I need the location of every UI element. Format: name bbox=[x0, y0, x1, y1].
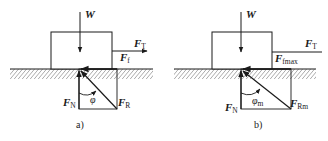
ground-hatching bbox=[10, 69, 153, 79]
label-tension: FT bbox=[133, 37, 146, 51]
label-weight: W bbox=[246, 8, 257, 20]
label-friction-max: Ffmax bbox=[274, 52, 298, 66]
label-tension: FT bbox=[304, 37, 317, 51]
caption-b: b) bbox=[254, 119, 262, 131]
friction-diagram: W FT Ff FN FR φ a) W FT Ffmax FN FRm φm … bbox=[0, 0, 328, 141]
block bbox=[212, 32, 272, 69]
label-normal: FN bbox=[224, 101, 238, 115]
label-resultant: FR bbox=[117, 96, 130, 110]
label-normal: FN bbox=[62, 96, 76, 110]
panel-a: W FT Ff FN FR φ a) bbox=[10, 8, 153, 131]
label-weight: W bbox=[85, 8, 96, 20]
label-angle: φm bbox=[252, 95, 264, 108]
angle-arc bbox=[241, 89, 260, 95]
panel-b: W FT Ffmax FN FRm φm b) bbox=[174, 8, 322, 131]
block bbox=[51, 32, 112, 69]
label-resultant: FRm bbox=[289, 97, 308, 111]
ground-hatching bbox=[174, 69, 316, 79]
caption-a: a) bbox=[76, 119, 84, 131]
label-angle: φ bbox=[90, 94, 96, 105]
label-friction: Ff bbox=[119, 51, 130, 65]
